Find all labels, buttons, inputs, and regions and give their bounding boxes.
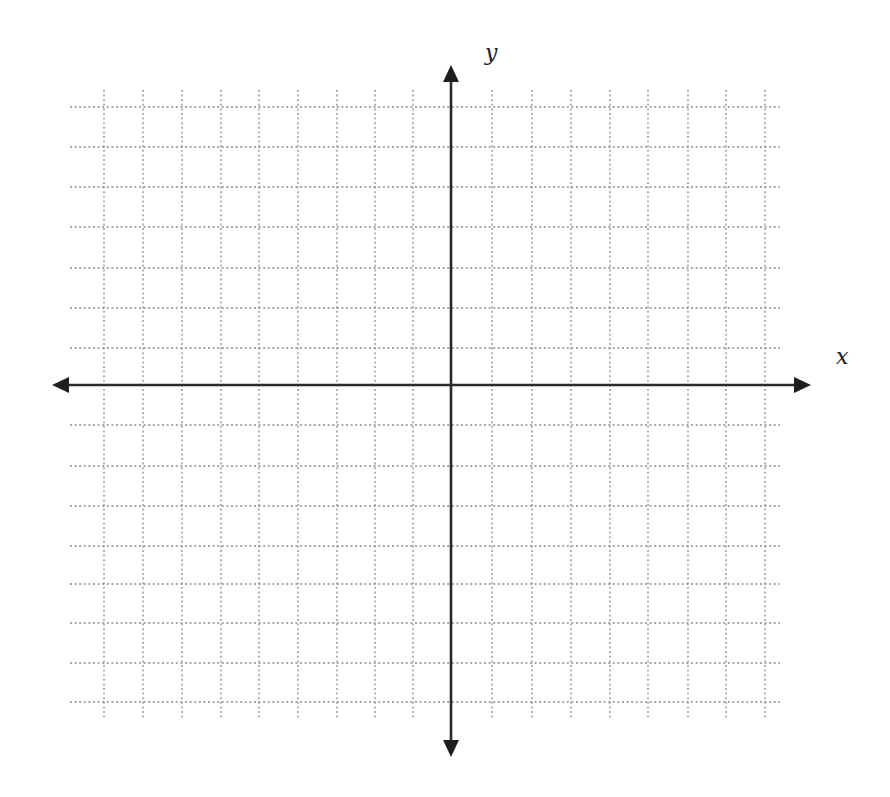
x-axis-left-arrow-icon xyxy=(52,377,69,393)
grid xyxy=(70,90,780,720)
coordinate-plane xyxy=(0,0,890,797)
x-axis-right-arrow-icon xyxy=(794,377,811,393)
axes xyxy=(52,65,811,757)
x-axis-label: x xyxy=(836,346,848,368)
y-axis-down-arrow-icon xyxy=(443,740,459,757)
y-axis-up-arrow-icon xyxy=(443,65,459,82)
y-axis-label: y xyxy=(485,42,497,64)
